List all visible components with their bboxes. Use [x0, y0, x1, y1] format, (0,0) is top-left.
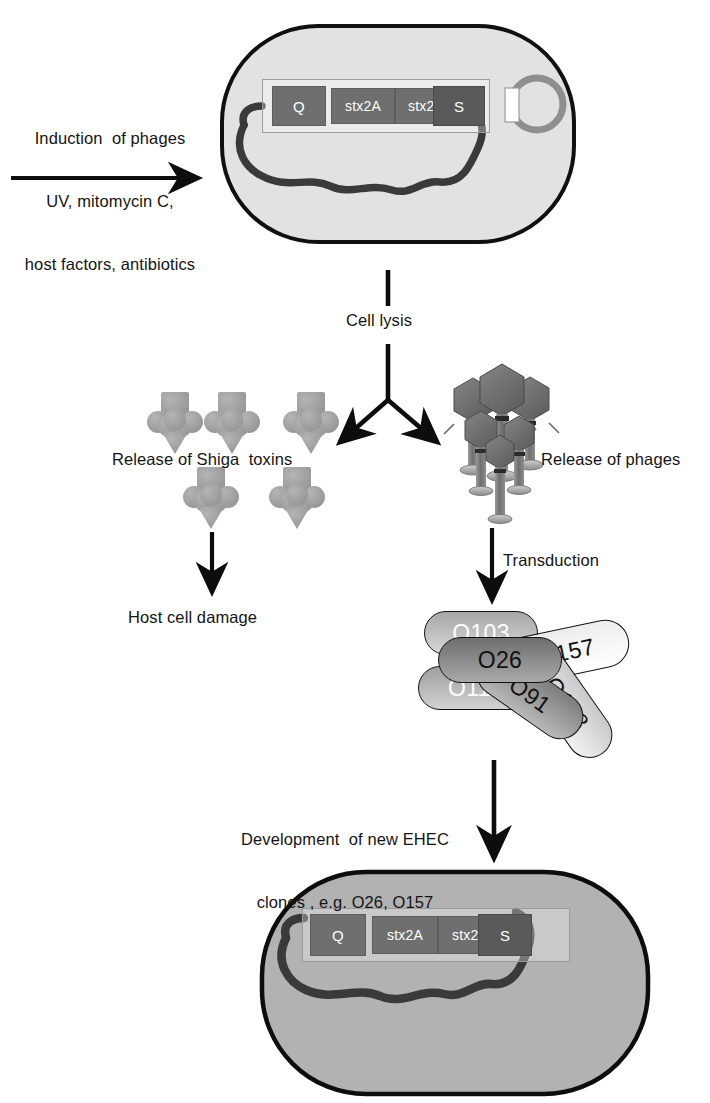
induction-line-3: host factors, antibiotics: [4, 254, 216, 275]
top-cell: [222, 26, 574, 242]
cell-lysis-connector: [340, 270, 437, 442]
serotype-label: O26: [478, 647, 522, 674]
gene-label: stx2A: [345, 98, 381, 114]
gene-box-s-top: S: [433, 86, 485, 126]
transduction-label: Transduction: [503, 550, 599, 571]
release-toxins-label: Release of Shiga toxins: [112, 449, 292, 470]
gene-box-q-top: Q: [272, 86, 326, 126]
release-phages-label: Release of phages: [541, 449, 680, 470]
gene-box-s-bottom: S: [478, 914, 532, 956]
host-damage-label: Host cell damage: [128, 607, 257, 628]
induction-text: Induction of phages UV, mitomycin C, hos…: [4, 86, 216, 317]
gene-label: Q: [293, 98, 305, 115]
serotype-capsule-o26: O26: [438, 637, 562, 683]
figure-canvas: Q stx2A stx2B S Q stx2A stx2B S O103 O11…: [0, 0, 710, 1103]
development-line-2: clones , e.g. O26, O157: [214, 892, 476, 913]
development-line-1: Development of new EHEC: [214, 829, 476, 850]
induction-line-2: UV, mitomycin C,: [4, 191, 216, 212]
development-text: Development of new EHEC clones , e.g. O2…: [214, 787, 476, 955]
cell-lysis-label: Cell lysis: [343, 310, 415, 331]
phage-group: [444, 364, 559, 524]
induction-line-1: Induction of phages: [4, 128, 216, 149]
gene-label: S: [500, 927, 510, 944]
gene-label: S: [454, 98, 464, 115]
gene-box-stx2a-top: stx2A: [331, 88, 395, 124]
